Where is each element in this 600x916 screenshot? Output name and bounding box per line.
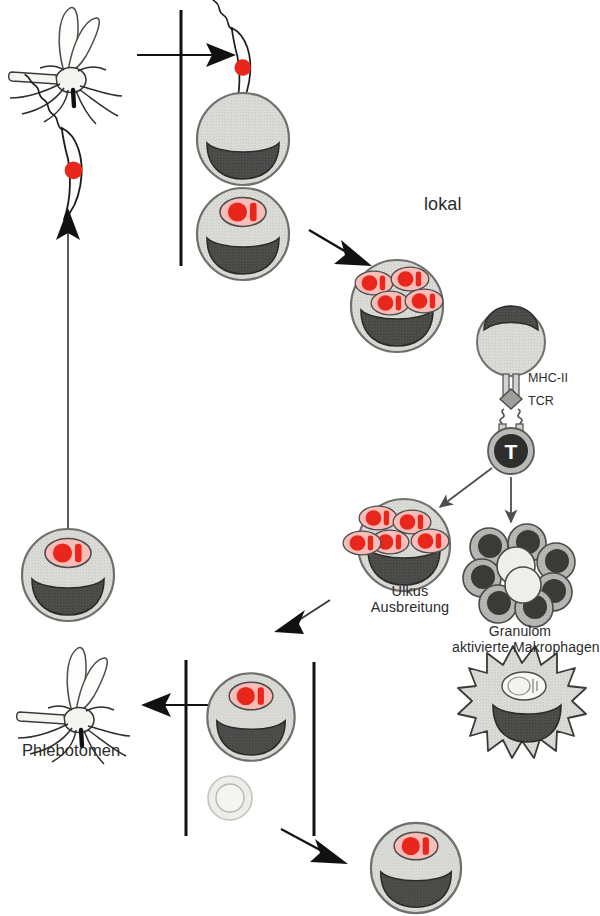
arrow-to-multi-infected — [309, 230, 372, 266]
macrophage-left — [22, 529, 114, 621]
arrow-to-sandfly — [141, 693, 210, 717]
arrow-cycle-up — [56, 208, 80, 530]
label-granulom-line2: aktivierte Makrophagen — [452, 640, 588, 656]
granuloma-cluster — [463, 524, 575, 627]
t-cell-letter: T — [505, 440, 518, 463]
label-tcr: TCR — [528, 394, 554, 408]
sandfly-top — [9, 8, 122, 124]
label-mhc-ii: MHC-II — [528, 371, 568, 385]
label-granulom-line1: Granulom — [452, 624, 588, 640]
t-cell: T — [488, 428, 534, 474]
activated-macrophage — [458, 646, 586, 758]
macrophage-ulkus — [343, 499, 450, 591]
label-phlebotomen: Phlebotomen — [22, 741, 120, 759]
macrophage-1 — [197, 93, 289, 185]
antigen-presenting-cell — [477, 306, 545, 376]
mhc-tcr-synapse — [499, 374, 523, 434]
macrophage-2 — [197, 188, 289, 280]
arrow-into-skin-top — [137, 43, 236, 67]
arrow-t-to-ulkus — [440, 468, 492, 507]
macrophage-3 — [351, 260, 443, 352]
macrophage-4 — [207, 673, 294, 760]
macrophage-5 — [371, 823, 461, 913]
label-ulkus-line2: Ausbreitung — [362, 599, 458, 615]
label-ulkus-ausbreitung: Ulkus Ausbreitung — [362, 583, 458, 615]
label-granulom: Granulom aktivierte Makrophagen — [452, 624, 588, 655]
label-ulkus-line1: Ulkus — [362, 583, 458, 599]
arrow-ulkus-to-bottom — [274, 600, 330, 634]
small-vesicle — [208, 776, 252, 820]
label-lokal: lokal — [424, 194, 462, 214]
